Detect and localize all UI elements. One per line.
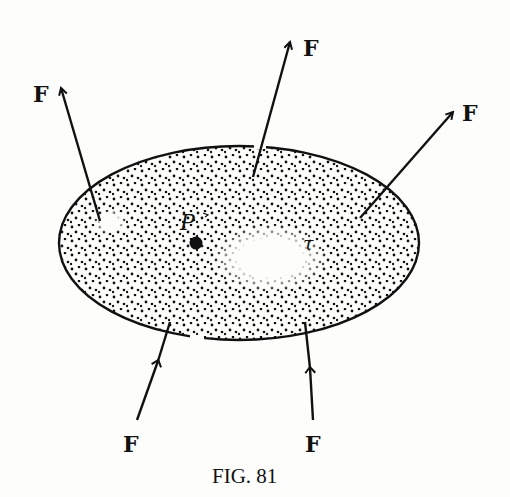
force-label-upper-left: F: [33, 81, 49, 107]
region-label-tau: τ: [303, 232, 314, 254]
force-arrow-upper-right: [360, 112, 453, 218]
body-region-tau: [59, 143, 419, 342]
force-label-upper-right: F: [462, 100, 478, 126]
figure-caption: FIG. 81: [212, 464, 277, 488]
point-p-dot: [190, 237, 203, 250]
figure-81: F F F F F P τ FIG. 81: [0, 0, 510, 497]
force-arrow-lower-left: [137, 322, 170, 420]
force-label-top: F: [303, 35, 319, 61]
force-label-lower-left: F: [123, 431, 139, 457]
point-label-p: P: [179, 210, 196, 235]
force-label-lower-right: F: [305, 431, 321, 457]
diagram-canvas: F F F F F P τ FIG. 81: [0, 0, 510, 497]
